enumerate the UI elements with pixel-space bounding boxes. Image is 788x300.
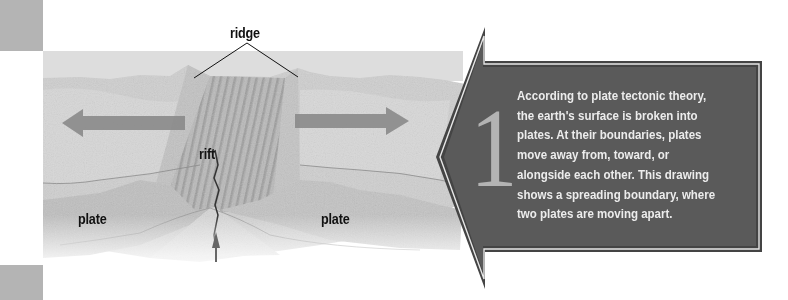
plate-left-label: plate: [78, 211, 107, 227]
callout-line: plates. At their boundaries, plates: [517, 125, 732, 145]
callout-line: shows a spreading boundary, where: [517, 185, 732, 205]
callout-text: According to plate tectonic theory, the …: [517, 86, 732, 224]
rift-label: rift: [199, 146, 215, 162]
plate-right-label: plate: [321, 211, 350, 227]
callout-line: alongside each other. This drawing: [517, 165, 732, 185]
step-number: 1: [470, 92, 518, 204]
callout-line: move away from, toward, or: [517, 145, 732, 165]
callout-line: the earth's surface is broken into: [517, 106, 732, 126]
ridge-label: ridge: [230, 25, 260, 41]
diagram-page: ridge rift plate plate 1 According to pl…: [0, 0, 788, 300]
callout-line: two plates are moving apart.: [517, 204, 732, 224]
callout-line: According to plate tectonic theory,: [517, 86, 732, 106]
